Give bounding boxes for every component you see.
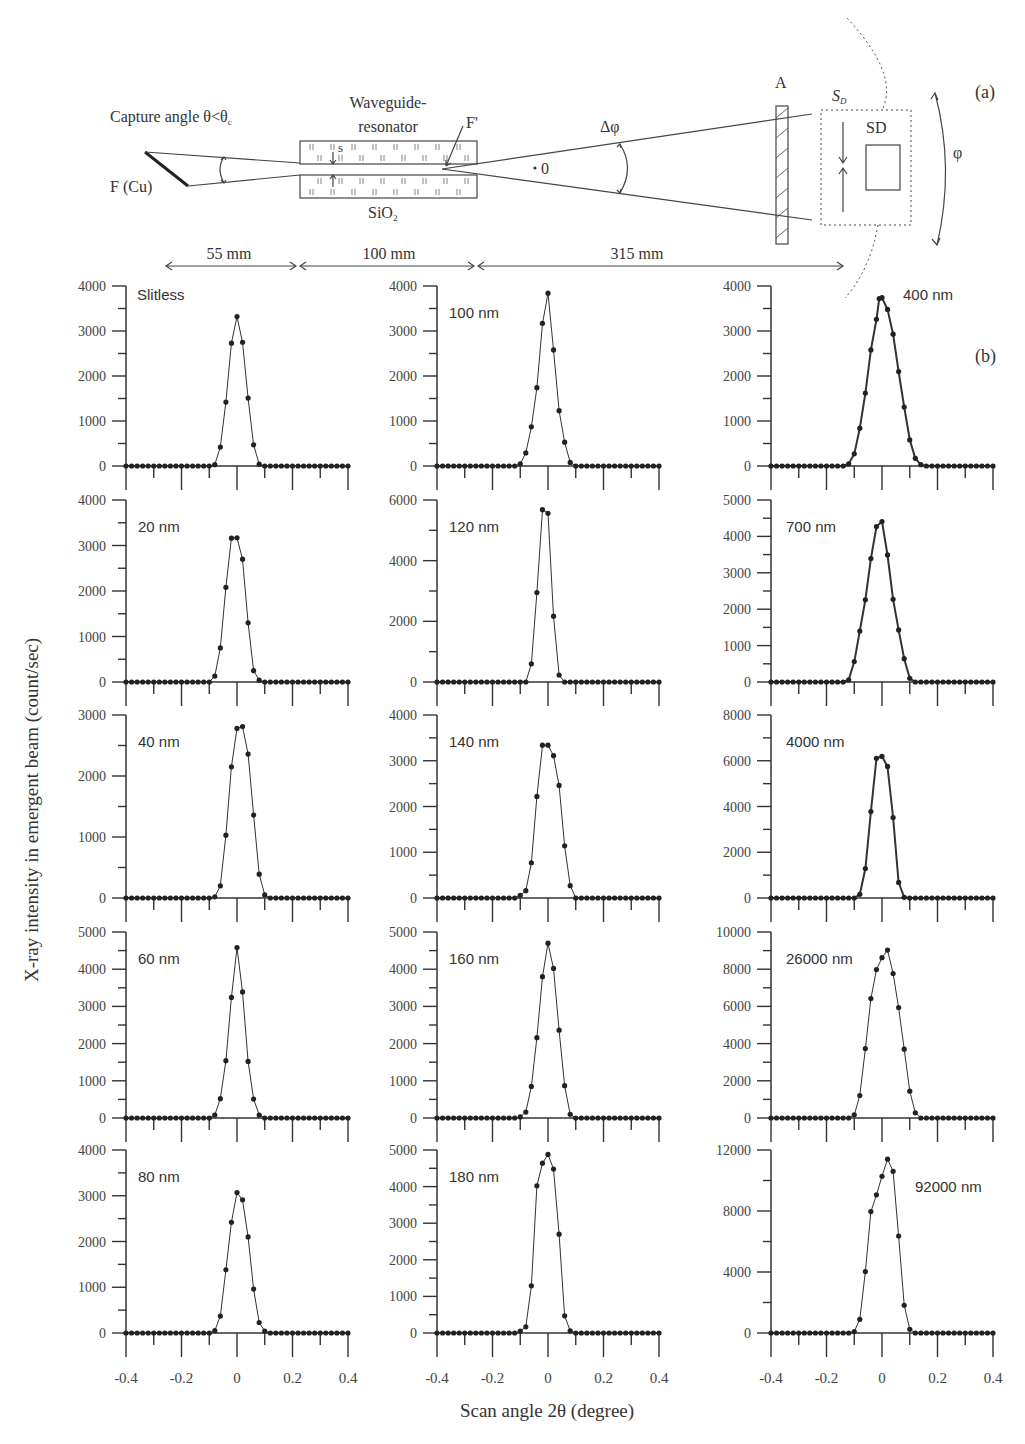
data-point (952, 1330, 957, 1335)
data-point (479, 463, 484, 468)
data-point (974, 1330, 979, 1335)
data-point (129, 1330, 134, 1335)
data-point (295, 895, 300, 900)
data-point (645, 679, 650, 684)
data-point (623, 1115, 628, 1120)
data-point (129, 895, 134, 900)
data-point (140, 1115, 145, 1120)
y-tick-label: 3000 (389, 1216, 417, 1231)
data-point (634, 1115, 639, 1120)
data-point (434, 1330, 439, 1335)
x-tick-label: 0.2 (928, 1370, 947, 1386)
data-point (968, 679, 973, 684)
data-point (140, 679, 145, 684)
data-point (824, 463, 829, 468)
data-point (334, 1330, 339, 1335)
data-point (451, 679, 456, 684)
data-point (979, 1330, 984, 1335)
data-point (857, 426, 862, 431)
data-point (968, 1330, 973, 1335)
data-point (507, 1115, 512, 1120)
data-point (818, 1330, 823, 1335)
y-tick-label: 3000 (389, 754, 417, 769)
data-point (802, 679, 807, 684)
data-point (957, 679, 962, 684)
data-point (634, 463, 639, 468)
data-point (573, 463, 578, 468)
data-point (290, 679, 295, 684)
data-point (985, 1330, 990, 1335)
data-point (829, 679, 834, 684)
data-point (273, 1330, 278, 1335)
data-point (529, 424, 534, 429)
data-point (785, 463, 790, 468)
data-point (218, 445, 223, 450)
x-axis-label: Scan angle 2θ (degree) (460, 1400, 634, 1422)
data-point (240, 557, 245, 562)
data-point (507, 463, 512, 468)
data-point (457, 895, 462, 900)
data-point (312, 1115, 317, 1120)
data-point (957, 463, 962, 468)
data-point (196, 463, 201, 468)
data-point (334, 895, 339, 900)
data-point (957, 1330, 962, 1335)
data-point (940, 1115, 945, 1120)
data-point (340, 895, 345, 900)
data-point (807, 1330, 812, 1335)
data-point (135, 463, 140, 468)
material-label: SiO2 (368, 204, 397, 223)
data-point (802, 463, 807, 468)
x-tick-label: 0 (544, 1370, 552, 1386)
data-point (818, 1115, 823, 1120)
data-point (196, 1115, 201, 1120)
data-point (295, 1115, 300, 1120)
data-point (540, 743, 545, 748)
data-point (551, 614, 556, 619)
data-point (885, 947, 890, 952)
data-point (902, 1047, 907, 1052)
data-point (935, 463, 940, 468)
source-label: F (Cu) (110, 178, 152, 196)
data-point (135, 895, 140, 900)
data-point (146, 895, 151, 900)
data-point (979, 895, 984, 900)
data-point (940, 895, 945, 900)
y-tick-label: 0 (744, 891, 751, 906)
data-point (612, 895, 617, 900)
data-point (946, 895, 951, 900)
panel-title: 26000 nm (786, 950, 853, 967)
data-point (579, 895, 584, 900)
data-point (606, 1330, 611, 1335)
data-point (173, 895, 178, 900)
data-point (640, 679, 645, 684)
data-point (879, 1174, 884, 1179)
data-point (246, 1059, 251, 1064)
data-point (562, 440, 567, 445)
gap-arrows (330, 152, 336, 187)
data-point (201, 895, 206, 900)
y-tick-label: 1000 (389, 845, 417, 860)
y-tick-label: 8000 (723, 708, 751, 723)
data-point (584, 679, 589, 684)
data-point (479, 895, 484, 900)
data-point (212, 1112, 217, 1117)
y-tick-label: 4000 (389, 554, 417, 569)
y-tick-label: 0 (410, 1111, 417, 1126)
data-point (946, 1115, 951, 1120)
data-point (896, 369, 901, 374)
data-point (913, 1330, 918, 1335)
data-point (312, 895, 317, 900)
data-point (584, 1115, 589, 1120)
data-point (295, 463, 300, 468)
data-point (523, 1324, 528, 1329)
data-point (135, 679, 140, 684)
data-point (501, 463, 506, 468)
data-point (974, 463, 979, 468)
data-point (146, 679, 151, 684)
data-point (484, 679, 489, 684)
data-point (184, 1115, 189, 1120)
y-tick-label: 0 (99, 1111, 106, 1126)
data-point (307, 463, 312, 468)
data-point (279, 1330, 284, 1335)
